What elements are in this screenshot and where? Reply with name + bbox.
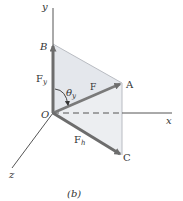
vector-F-label: F (90, 82, 96, 92)
origin-label: O (41, 109, 49, 120)
figure-caption: (b) (67, 188, 81, 199)
x-axis-label: x (166, 115, 172, 126)
point-C-label: C (123, 152, 131, 163)
vector-Fh-label: Fh (74, 134, 85, 147)
y-axis-label: y (41, 1, 48, 12)
point-A-label: A (125, 79, 134, 90)
z-axis-label: z (8, 169, 15, 180)
z-axis (12, 113, 53, 168)
force-diagram: y x z B A C O F Fy Fh θy (b) (0, 0, 183, 201)
vector-Fy-label: Fy (36, 73, 48, 86)
point-B-label: B (39, 41, 47, 52)
